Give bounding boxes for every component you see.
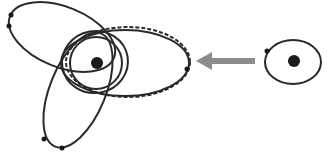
planet-icon	[7, 24, 12, 29]
planet-icon	[60, 146, 65, 151]
single-orbit-system	[265, 40, 322, 84]
arrow-head	[196, 52, 212, 70]
planet-icon	[9, 13, 14, 18]
planet-icon	[42, 137, 47, 142]
left-arrow-icon	[196, 52, 255, 70]
planet-icon	[185, 67, 190, 72]
planet-icon	[265, 49, 270, 54]
central-star-icon	[91, 57, 103, 69]
star-icon	[288, 55, 300, 67]
tilted-upper-left-orbit	[0, 0, 125, 86]
perturbed-orbits-system	[0, 0, 190, 157]
orbit-diagram	[0, 0, 328, 157]
